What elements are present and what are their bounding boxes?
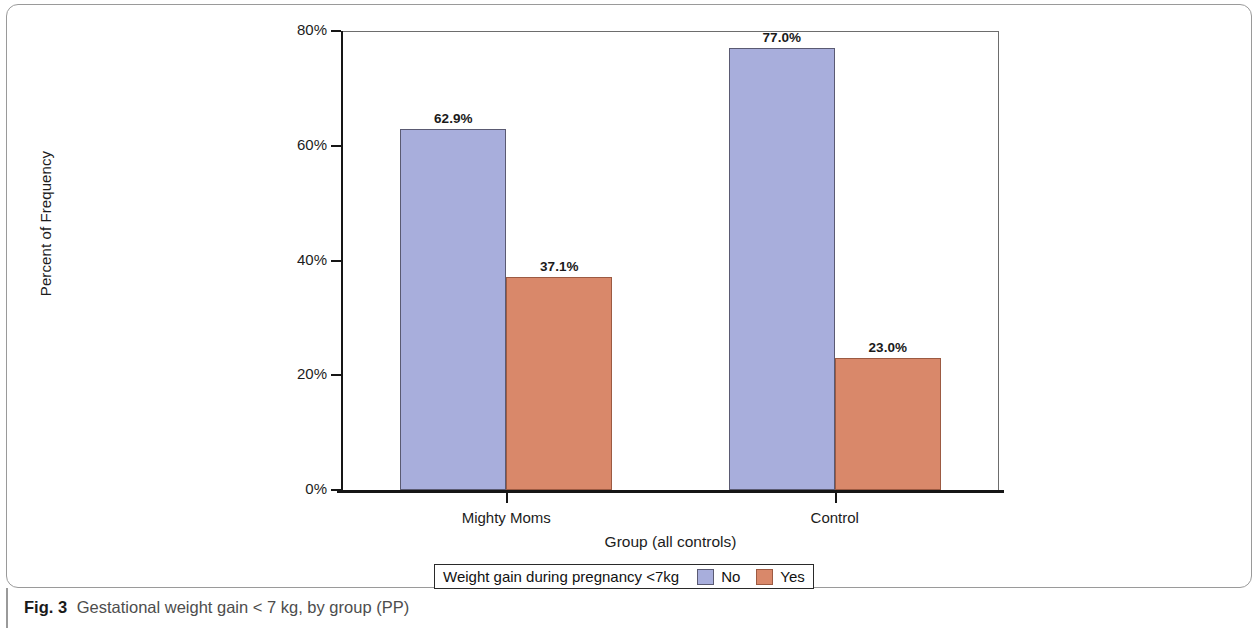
bar-mighty-moms-yes: 37.1% <box>506 277 612 490</box>
legend-title: Weight gain during pregnancy <7kg <box>443 568 679 585</box>
bar-control-no: 77.0% <box>729 48 835 490</box>
y-axis-tick-label: 80% <box>297 21 327 38</box>
y-axis-tick-label: 60% <box>297 136 327 153</box>
bar-value-label: 37.1% <box>540 259 578 274</box>
plot-area: 62.9%37.1%77.0%23.0% <box>342 31 999 490</box>
legend-entries: NoYes <box>697 568 805 585</box>
y-axis-ticks: 0%20%40%60%80% <box>7 5 341 492</box>
legend-swatch-yes <box>756 569 773 585</box>
figure-caption-text: Gestational weight gain < 7 kg, by group… <box>72 598 409 616</box>
x-axis-tick-mark <box>835 492 837 503</box>
y-axis-tick-mark <box>331 145 341 147</box>
bar-value-label: 23.0% <box>869 340 907 355</box>
bar-mighty-moms-no: 62.9% <box>400 129 506 490</box>
chart-canvas: Percent of Frequency 0%20%40%60%80% 62.9… <box>7 5 1253 589</box>
legend-entry-yes: Yes <box>756 568 804 585</box>
legend-swatch-no <box>697 569 714 585</box>
y-axis-tick-label: 20% <box>297 365 327 382</box>
figure-caption-label: Fig. 3 <box>24 598 67 616</box>
y-axis-tick-mark <box>331 30 341 32</box>
caption-left-rule <box>6 588 8 628</box>
y-axis-tick-mark <box>331 374 341 376</box>
x-axis-tick-label: Control <box>811 509 859 526</box>
legend-label-no: No <box>721 568 740 585</box>
bar-value-label: 62.9% <box>434 111 472 126</box>
chart-legend: Weight gain during pregnancy <7kg NoYes <box>434 564 814 589</box>
x-axis-title: Group (all controls) <box>342 533 999 551</box>
figure-caption: Fig. 3 Gestational weight gain < 7 kg, b… <box>24 598 409 617</box>
x-axis-tick-mark <box>506 492 508 503</box>
legend-entry-no: No <box>697 568 740 585</box>
legend-label-yes: Yes <box>780 568 804 585</box>
y-axis-tick-label: 40% <box>297 251 327 268</box>
y-axis-tick-mark <box>331 260 341 262</box>
bar-control-yes: 23.0% <box>835 358 941 490</box>
figure-frame: Percent of Frequency 0%20%40%60%80% 62.9… <box>6 4 1252 588</box>
y-axis-tick-mark <box>331 489 341 491</box>
x-axis-tick-label: Mighty Moms <box>462 509 551 526</box>
bar-value-label: 77.0% <box>763 30 801 45</box>
y-axis-tick-label: 0% <box>305 480 327 497</box>
